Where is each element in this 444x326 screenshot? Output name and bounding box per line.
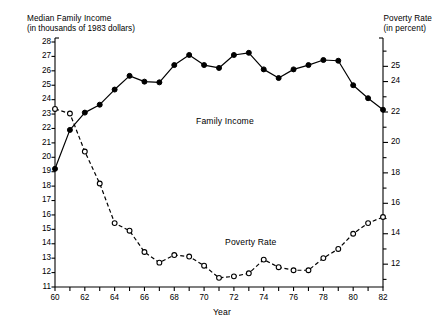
poverty-rate-point <box>321 256 326 261</box>
left-axis-tick-label: 23 <box>26 110 51 118</box>
series-group <box>53 50 386 280</box>
family-income-point <box>276 76 281 81</box>
poverty-rate-point <box>82 149 87 154</box>
family-income-point <box>67 127 72 132</box>
poverty-rate-point <box>381 215 386 220</box>
left-axis-tick-label: 25 <box>26 81 51 89</box>
chart-container: Median Family Income (in thousands of 19… <box>0 0 444 326</box>
family-income-point <box>82 110 87 115</box>
poverty-rate-point <box>336 247 341 252</box>
family-income-point <box>127 73 132 78</box>
family-income-point <box>246 50 251 55</box>
family-income-point <box>142 79 147 84</box>
poverty-rate-point <box>142 250 147 255</box>
x-axis-label: Year <box>0 307 444 317</box>
poverty-rate-point <box>366 221 371 226</box>
right-axis-tick-label: 25 <box>391 62 413 70</box>
right-axis-tick-label: 20 <box>391 138 413 146</box>
family-income-point <box>97 102 102 107</box>
left-axis-tick-label: 19 <box>26 167 51 175</box>
left-axis-tick-label: 17 <box>26 196 51 204</box>
poverty-rate-point <box>306 268 311 273</box>
left-axis-tick-label: 12 <box>26 268 51 276</box>
poverty-rate-point <box>187 254 192 259</box>
left-axis-tick-label: 24 <box>26 95 51 103</box>
family-income-point <box>172 63 177 68</box>
poverty-rate-point <box>172 253 177 258</box>
right-axis-tick-label: 14 <box>391 229 413 237</box>
family-income-point <box>321 58 326 63</box>
poverty-rate-line <box>55 109 383 278</box>
poverty-rate-point <box>97 181 102 186</box>
x-axis-tick-label: 60 <box>45 294 65 302</box>
left-axis-tick-label: 13 <box>26 254 51 262</box>
poverty-rate-point <box>276 265 281 270</box>
left-axis-tick-label: 20 <box>26 153 51 161</box>
family-income-point <box>261 67 266 72</box>
poverty-rate-point <box>68 111 73 116</box>
family-income-point <box>351 83 356 88</box>
x-axis-tick-label: 78 <box>313 294 333 302</box>
left-axis-tick-label: 28 <box>26 38 51 46</box>
x-axis-tick-label: 66 <box>134 294 154 302</box>
poverty-rate-point <box>157 260 162 265</box>
family-income-point <box>187 52 192 57</box>
right-axis-tick-label: 24 <box>391 77 413 85</box>
left-axis-tick-label: 16 <box>26 211 51 219</box>
right-axis-tick-label: 16 <box>391 199 413 207</box>
family-income-point <box>336 58 341 63</box>
poverty-rate-point <box>112 221 117 226</box>
family-income-point <box>217 65 222 70</box>
family-income-point <box>306 63 311 68</box>
poverty-rate-point <box>351 231 356 236</box>
family-income-point <box>381 107 386 112</box>
x-axis-tick-label: 74 <box>254 294 274 302</box>
x-axis-tick-label: 68 <box>164 294 184 302</box>
left-axis-tick-label: 15 <box>26 225 51 233</box>
poverty-rate-point <box>291 268 296 273</box>
x-axis-tick-label: 62 <box>75 294 95 302</box>
chart-plot-area <box>0 0 444 326</box>
left-axis-tick-label: 27 <box>26 52 51 60</box>
poverty-rate-point <box>246 271 251 276</box>
x-axis-tick-label: 64 <box>105 294 125 302</box>
x-axis-tick-label: 72 <box>224 294 244 302</box>
left-axis-tick-label: 14 <box>26 239 51 247</box>
poverty-rate-point <box>202 263 207 268</box>
poverty-rate-point <box>261 257 266 262</box>
left-axis-tick-label: 21 <box>26 139 51 147</box>
poverty-rate-point <box>232 274 237 279</box>
right-axis-tick-label: 18 <box>391 169 413 177</box>
family-income-point <box>53 166 58 171</box>
left-axis-tick-label: 18 <box>26 182 51 190</box>
x-axis-tick-label: 76 <box>284 294 304 302</box>
family-income-point <box>202 63 207 68</box>
poverty-rate-point <box>53 107 58 112</box>
series-label-family-income: Family Income <box>196 116 254 126</box>
left-axis-tick-label: 11 <box>26 283 51 291</box>
x-axis-tick-label: 70 <box>194 294 214 302</box>
right-axis-tick-label: 22 <box>391 108 413 116</box>
poverty-rate-point <box>217 275 222 280</box>
axes-group <box>52 38 389 291</box>
poverty-rate-point <box>127 228 132 233</box>
family-income-point <box>366 96 371 101</box>
x-axis-tick-label: 82 <box>373 294 393 302</box>
series-label-poverty-rate: Poverty Rate <box>225 237 276 247</box>
x-axis-tick-label: 80 <box>343 294 363 302</box>
family-income-point <box>291 67 296 72</box>
family-income-point <box>157 80 162 85</box>
left-axis-tick-label: 26 <box>26 67 51 75</box>
family-income-point <box>112 87 117 92</box>
left-axis-tick-label: 22 <box>26 124 51 132</box>
right-axis-tick-label: 12 <box>391 260 413 268</box>
family-income-point <box>231 52 236 57</box>
